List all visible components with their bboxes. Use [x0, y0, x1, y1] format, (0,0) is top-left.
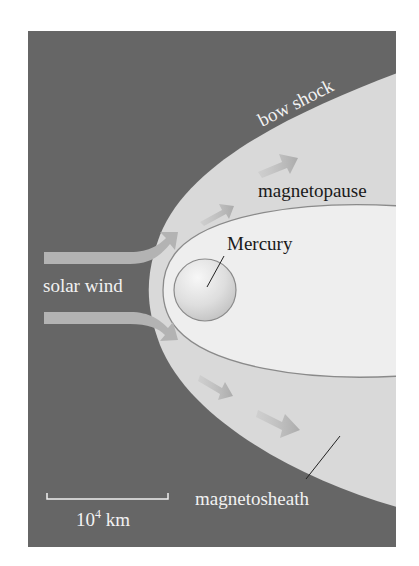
solar-wind-label: solar wind — [43, 275, 123, 296]
mercury-label: Mercury — [227, 233, 293, 254]
svg-text:104 km: 104 km — [76, 507, 130, 530]
scale-base: 10 — [76, 509, 95, 530]
magnetopause-label: magnetopause — [258, 180, 367, 201]
scale-unit: km — [101, 509, 130, 530]
magnetosphere-diagram: bow shock magnetopause Mercury solar win… — [0, 0, 419, 566]
magnetosheath-label: magnetosheath — [195, 488, 309, 509]
mercury-planet — [174, 259, 236, 321]
